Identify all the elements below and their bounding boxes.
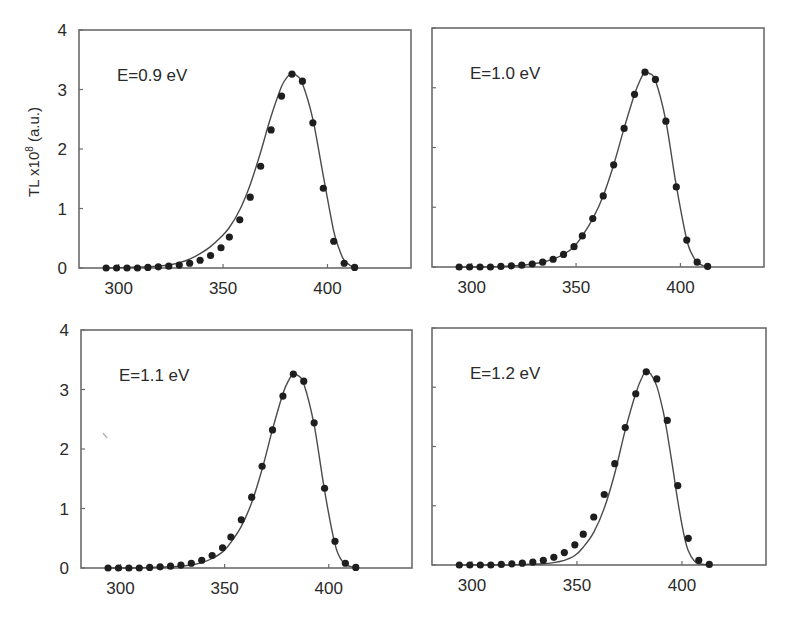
data-point	[207, 252, 214, 259]
data-point	[540, 557, 547, 564]
data-point	[571, 541, 578, 548]
data-point	[115, 564, 122, 571]
data-point	[632, 390, 639, 397]
data-point	[529, 558, 536, 565]
data-point	[579, 232, 586, 239]
energy-annotation: E=1.0 eV	[470, 64, 541, 83]
data-point	[219, 544, 226, 551]
data-point	[259, 463, 266, 470]
x-tick-label: 300	[106, 579, 134, 598]
data-point	[330, 238, 337, 245]
data-point	[157, 563, 164, 570]
data-point	[104, 564, 111, 571]
y-tick-label: 3	[58, 81, 67, 100]
data-point	[226, 233, 233, 240]
data-point	[664, 417, 671, 424]
data-point	[288, 70, 295, 77]
data-point	[600, 192, 607, 199]
data-point	[269, 426, 276, 433]
data-point	[247, 194, 254, 201]
panel-top-left: 01234300350400E=0.9 eV	[58, 21, 411, 298]
data-point	[136, 564, 143, 571]
data-point	[561, 549, 568, 556]
data-point	[685, 535, 692, 542]
y-tick-label: 3	[60, 381, 69, 400]
x-tick-label: 300	[458, 576, 486, 595]
data-point	[508, 262, 515, 269]
data-point	[653, 375, 660, 382]
y-axis-label: TL x108 (a.u.)	[24, 107, 42, 197]
data-point	[134, 264, 141, 271]
energy-annotation: E=1.2 eV	[470, 364, 541, 383]
figure: TL x108 (a.u.) 01234300350400E=0.9 eV 30…	[0, 0, 793, 628]
x-tick-label: 300	[104, 279, 132, 298]
data-point	[209, 552, 216, 559]
data-point	[643, 368, 650, 375]
data-point	[278, 92, 285, 99]
data-point	[519, 560, 526, 567]
data-point	[217, 244, 224, 251]
data-point	[539, 259, 546, 266]
y-tick-label: 0	[60, 559, 69, 578]
data-point	[570, 243, 577, 250]
data-point	[144, 264, 151, 271]
data-point	[508, 560, 515, 567]
data-point	[331, 538, 338, 545]
data-point	[238, 516, 245, 523]
data-point	[631, 91, 638, 98]
data-point	[146, 564, 153, 571]
data-point	[560, 251, 567, 258]
data-point	[248, 494, 255, 501]
data-point	[683, 237, 690, 244]
data-point	[497, 263, 504, 270]
data-point	[611, 460, 618, 467]
data-point	[188, 560, 195, 567]
y-axis-label-unit: (a.u.)	[25, 107, 42, 146]
data-point	[321, 485, 328, 492]
data-point	[477, 561, 484, 568]
data-point	[550, 256, 557, 263]
x-tick-label: 350	[210, 579, 238, 598]
data-point	[167, 563, 174, 570]
data-point	[197, 257, 204, 264]
x-tick-label: 350	[209, 279, 237, 298]
data-point	[165, 263, 172, 270]
y-axis-label-main: TL x10	[25, 152, 42, 197]
data-point	[498, 561, 505, 568]
data-point	[641, 69, 648, 76]
data-point	[550, 554, 557, 561]
data-point	[529, 260, 536, 267]
data-point	[103, 264, 110, 271]
y-tick-label: 2	[58, 140, 67, 159]
stray-mark	[103, 433, 107, 438]
data-point	[704, 263, 711, 270]
data-point	[320, 185, 327, 192]
data-point	[466, 561, 473, 568]
panel-bottom-right: 300350400E=1.2 eV	[432, 328, 766, 595]
x-tick-label: 400	[666, 278, 694, 297]
x-tick-label: 400	[315, 579, 343, 598]
y-tick-label: 4	[60, 321, 69, 340]
data-point	[621, 125, 628, 132]
data-point	[694, 259, 701, 266]
panel-bottom-left: 01234300350400E=1.1 eV	[60, 321, 412, 598]
x-tick-label: 350	[562, 278, 590, 297]
data-point	[580, 531, 587, 538]
data-point	[590, 513, 597, 520]
data-point	[113, 264, 120, 271]
x-tick-label: 400	[668, 576, 696, 595]
data-point	[155, 263, 162, 270]
data-point	[673, 183, 680, 190]
data-point	[662, 118, 669, 125]
data-point	[236, 216, 243, 223]
data-point	[695, 557, 702, 564]
data-point	[176, 261, 183, 268]
data-point	[706, 561, 713, 568]
data-point	[177, 561, 184, 568]
data-point	[351, 264, 358, 271]
data-point	[622, 424, 629, 431]
y-tick-label: 1	[60, 500, 69, 519]
data-point	[198, 557, 205, 564]
data-point	[309, 119, 316, 126]
data-point	[342, 560, 349, 567]
